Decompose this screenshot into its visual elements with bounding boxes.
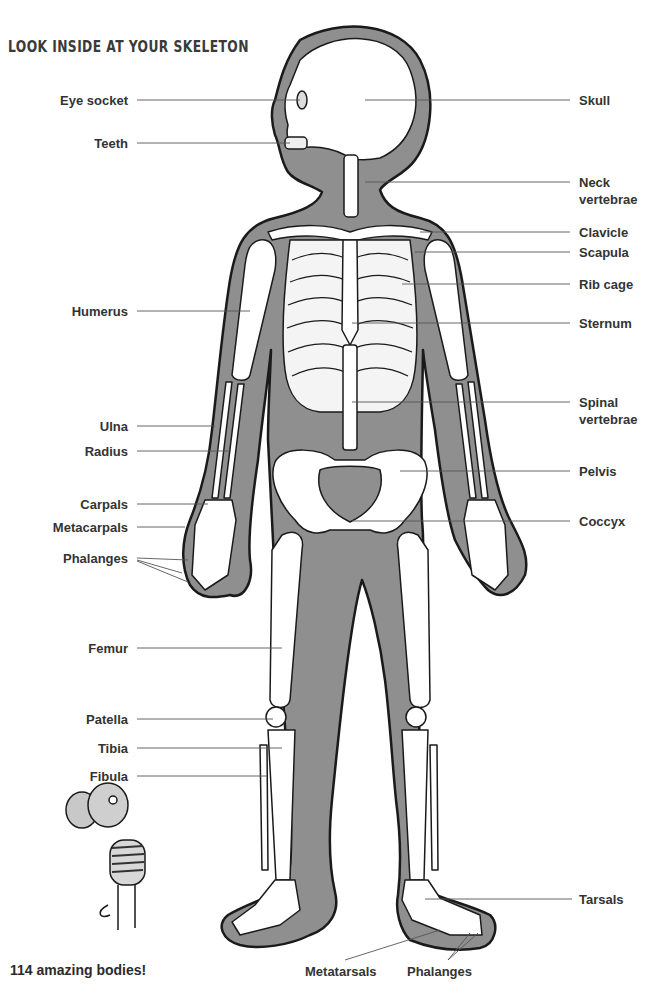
sternum-bone	[342, 240, 358, 345]
mouse-illustration	[66, 783, 145, 930]
label-fibula: Fibula	[90, 768, 128, 785]
spine-bone	[343, 345, 357, 450]
label-femur: Femur	[88, 640, 128, 657]
label-sternum: Sternum	[579, 315, 632, 332]
label-teeth: Teeth	[94, 135, 128, 152]
label-eye-socket: Eye socket	[60, 92, 128, 109]
label-coccyx: Coccyx	[579, 513, 625, 530]
label-metacarpals: Metacarpals	[53, 519, 128, 536]
label-neck-vertebrae: Neck vertebrae	[579, 174, 638, 208]
label-rib-cage: Rib cage	[579, 276, 633, 293]
patella-right	[406, 707, 426, 727]
page-footer: 114 amazing bodies!	[10, 962, 146, 978]
tibia-left	[268, 730, 295, 880]
label-carpals: Carpals	[80, 496, 128, 513]
label-spinal-vertebrae: Spinal vertebrae	[579, 394, 638, 428]
label-tibia: Tibia	[98, 740, 128, 757]
label-scapula: Scapula	[579, 244, 629, 261]
label-phalanges-hand: Phalanges	[63, 550, 128, 567]
label-metatarsals: Metatarsals	[305, 963, 377, 980]
fibula-left	[260, 745, 268, 870]
label-tarsals: Tarsals	[579, 891, 624, 908]
fibula-right	[430, 745, 438, 870]
label-patella: Patella	[86, 711, 128, 728]
label-phalanges-foot: Phalanges	[407, 963, 472, 980]
label-ulna: Ulna	[100, 418, 128, 435]
label-radius: Radius	[85, 443, 128, 460]
patella-left	[266, 707, 286, 727]
label-skull: Skull	[579, 92, 610, 109]
label-pelvis: Pelvis	[579, 463, 617, 480]
label-humerus: Humerus	[72, 303, 128, 320]
label-clavicle: Clavicle	[579, 224, 628, 241]
